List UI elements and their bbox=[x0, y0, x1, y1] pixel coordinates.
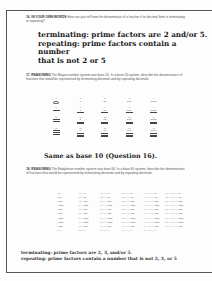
bottom-border bbox=[6, 272, 212, 273]
question-16-answer: terminating: prime factors are 2 and/or … bbox=[38, 31, 210, 65]
mayan-glyph-icon: • bbox=[77, 110, 84, 114]
mayan-glyph-icon: •• bbox=[103, 101, 106, 103]
mayan-glyph-icon: ••• bbox=[126, 110, 133, 114]
mayan-glyph-icon: •• bbox=[101, 119, 108, 124]
question-17-prompt: 17. REASONING The Mayan number system wa… bbox=[26, 73, 186, 81]
mayan-numeral-cell: 18••• bbox=[117, 127, 141, 137]
mayan-glyph-icon: •••• bbox=[150, 110, 157, 114]
mayan-numeral-cell: 15 bbox=[44, 127, 68, 137]
mayan-glyph-icon: •• bbox=[101, 110, 108, 114]
mayan-numeral-cell: 14•••• bbox=[142, 116, 166, 125]
mayan-numeral-cell: 19•••• bbox=[142, 127, 166, 137]
mayan-glyph-icon bbox=[53, 101, 59, 104]
mayan-numeral-cell: 12•• bbox=[93, 116, 117, 125]
mayan-numeral-cell: 7•• bbox=[93, 106, 117, 113]
babylonian-numeral-cell: 20 ◁◁ bbox=[79, 229, 101, 233]
mayan-numeral-cell: 16• bbox=[68, 127, 92, 137]
mayan-glyph-icon: • bbox=[77, 119, 84, 124]
babylonian-numeral-cell: 10 ◁ bbox=[57, 229, 79, 233]
mayan-glyph-icon: •••• bbox=[151, 101, 157, 103]
question-18-prompt: 18. REASONING The Babylonian number syst… bbox=[26, 167, 186, 175]
mayan-glyph-icon: ••• bbox=[127, 101, 132, 103]
babylonian-numeral-cell: 30 ◁◁◁ bbox=[100, 229, 122, 233]
mayan-glyph-icon: ••• bbox=[126, 130, 133, 137]
mayan-numeral-cell: 5 bbox=[44, 106, 68, 113]
question-17-answer: Same as base 10 (Question 16). bbox=[44, 152, 204, 160]
mayan-numeral-table: 01•2••3•••4••••56•7••8•••9••••1011•12••1… bbox=[44, 97, 166, 137]
babylonian-numeral-cell bbox=[165, 229, 187, 233]
mayan-numeral-cell: 3••• bbox=[117, 97, 141, 104]
mayan-glyph-icon: •• bbox=[101, 130, 108, 137]
answer-line: repeating: prime factors contain a numbe… bbox=[38, 40, 210, 57]
mayan-numeral-cell: 0 bbox=[44, 97, 68, 104]
left-border bbox=[6, 10, 7, 272]
question-18-answer: terminating: prime factors are 2, 3, and… bbox=[21, 250, 211, 262]
worksheet-page: 16. IN YOUR OWN WORDS How can you tell f… bbox=[0, 0, 212, 281]
mayan-glyph-icon: • bbox=[77, 130, 84, 137]
mayan-numeral-cell: 13••• bbox=[117, 116, 141, 125]
top-border bbox=[6, 10, 212, 11]
mayan-numeral-cell: 2•• bbox=[93, 97, 117, 104]
mayan-glyph-icon bbox=[53, 119, 60, 122]
babylonian-numeral-cell: 40 ◁◁◁◁ bbox=[122, 229, 144, 233]
mayan-glyph-icon: •••• bbox=[150, 130, 157, 137]
answer-line: repeating: prime factors contain a numbe… bbox=[21, 256, 211, 262]
question-16-prompt: 16. IN YOUR OWN WORDS How can you tell f… bbox=[26, 15, 186, 23]
mayan-glyph-icon: ••• bbox=[126, 119, 133, 124]
mayan-numeral-cell: 10 bbox=[44, 116, 68, 125]
mayan-glyph-icon bbox=[53, 110, 60, 111]
mayan-glyph-icon: • bbox=[80, 101, 82, 103]
mayan-numeral-cell: 8••• bbox=[117, 106, 141, 113]
babylonian-numeral-cell: 50 ◁◁◁◁◁ bbox=[144, 229, 166, 233]
mayan-numeral-cell: 1• bbox=[68, 97, 92, 104]
mayan-numeral-cell: 11• bbox=[68, 116, 92, 125]
mayan-numeral-cell: 17•• bbox=[93, 127, 117, 137]
mayan-glyph-icon bbox=[53, 130, 60, 134]
mayan-glyph-icon: •••• bbox=[150, 119, 157, 124]
babylonian-numeral-table: 1 ᐁ11 ◁ᐁ21 ◁◁ᐁ31 ◁◁◁ᐁ41 ◁◁◁◁ᐁ51 ◁◁◁◁◁ᐁ2 … bbox=[57, 192, 187, 233]
mayan-numeral-cell: 9•••• bbox=[142, 106, 166, 113]
mayan-numeral-cell: 6• bbox=[68, 106, 92, 113]
mayan-numeral-cell: 4•••• bbox=[142, 97, 166, 104]
answer-line: that is not 2 or 5 bbox=[38, 57, 210, 66]
